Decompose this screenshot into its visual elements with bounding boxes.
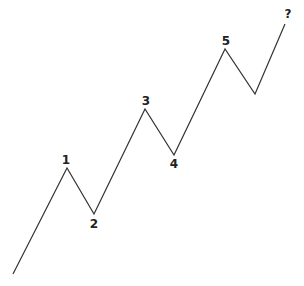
wave-label-4: 4 <box>170 157 178 171</box>
elliott-wave-diagram: 1 2 3 4 5 ? <box>0 0 304 286</box>
wave-label-5: 5 <box>222 34 230 48</box>
wave-label-2: 2 <box>90 217 98 231</box>
wave-label-question: ? <box>285 7 292 21</box>
wave-line <box>13 24 285 274</box>
wave-label-3: 3 <box>142 94 150 108</box>
wave-label-1: 1 <box>62 153 70 167</box>
